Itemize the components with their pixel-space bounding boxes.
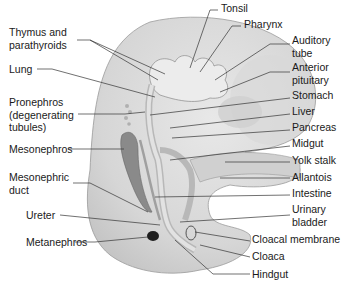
label-thymus: Thymus andparathyroids [9,26,67,51]
label-yolk-stalk: Yolk stalk [292,154,336,167]
label-mesonephros: Mesonephros [9,143,73,156]
label-mesonephric-duct: Mesonephricduct [9,171,69,196]
label-cloacal-membrane: Cloacal membrane [252,233,340,246]
label-cloaca: Cloaca [252,250,285,263]
label-auditory-tube: Auditorytube [292,34,331,59]
label-metanephros: Metanephros [26,236,87,249]
label-ureter: Ureter [26,209,55,222]
label-allantois: Allantois [292,171,332,184]
label-intestine: Intestine [292,187,332,200]
label-lung: Lung [9,63,32,76]
label-pharynx: Pharynx [244,18,283,31]
label-tonsil: Tonsil [221,2,248,15]
label-liver: Liver [292,105,315,118]
label-pronephros: Pronephros(degeneratingtubules) [9,96,74,134]
label-stomach: Stomach [292,89,333,102]
metanephros-shape [147,231,159,241]
label-urinary-bladder: Urinarybladder [292,203,327,228]
label-midgut: Midgut [292,137,324,150]
label-pancreas: Pancreas [292,121,336,134]
label-hindgut: Hindgut [252,268,288,281]
label-anterior-pituitary: Anteriorpituitary [292,61,329,86]
